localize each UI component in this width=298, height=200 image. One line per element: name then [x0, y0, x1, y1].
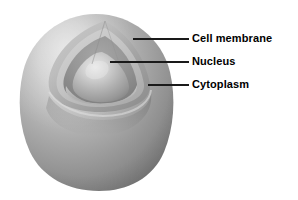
cell-diagram-figure: Cell membrane Nucleus Cytoplasm	[0, 0, 298, 200]
label-cell-membrane: Cell membrane	[192, 33, 272, 44]
label-nucleus: Nucleus	[192, 56, 236, 67]
cell-illustration	[0, 0, 298, 200]
label-cytoplasm: Cytoplasm	[192, 79, 249, 90]
